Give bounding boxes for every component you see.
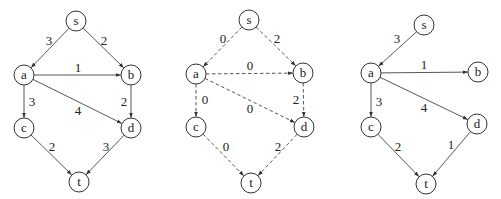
node-label: b [128,67,135,82]
node-label: t [424,176,428,191]
graph-original: 32134223sabcdt [14,11,141,192]
node-s: s [66,11,86,31]
edge-weight-a-c: 0 [202,92,209,107]
node-s: s [414,15,434,35]
node-label: b [475,64,482,79]
edge-weight-s-a: 3 [46,33,53,48]
node-a: a [186,64,206,84]
node-label: a [193,66,199,81]
edge-weight-s-a: 0 [220,31,227,46]
node-t: t [241,173,261,193]
edge-weight-a-b: 1 [75,60,82,75]
edge-weight-b-d: 2 [121,94,128,109]
node-a: a [361,63,381,83]
edge-weight-a-b: 1 [421,57,428,72]
edge-a-b [206,73,293,74]
edge-weight-c-t: 0 [223,139,230,154]
edge-weight-s-b: 2 [274,31,281,46]
node-label: a [368,65,374,80]
edge-weight-s-a: 3 [394,31,401,46]
graph-reduced-costs: 02000202sabcdt [186,10,314,193]
edge-weight-d-t: 3 [103,139,110,154]
graph-shortest-path-tree: 313421sabcdt [361,15,488,194]
node-c: c [361,117,381,137]
edge-weight-s-b: 2 [101,33,108,48]
node-d: d [121,118,141,138]
node-d: d [294,117,314,137]
edge-weight-a-c: 3 [29,94,36,109]
node-label: d [128,120,135,135]
edge-weight-a-d: 4 [421,100,428,115]
node-a: a [14,65,34,85]
edge-weight-a-c: 3 [376,94,383,109]
node-label: t [249,175,253,190]
edge-weight-d-t: 1 [448,137,455,152]
node-label: d [474,116,481,131]
edge-weight-a-d: 0 [247,101,254,116]
node-label: c [193,119,199,134]
node-label: c [21,120,27,135]
node-label: s [73,13,78,28]
node-label: t [77,174,81,189]
edge-weight-a-d: 4 [75,103,82,118]
edge-weight-c-t: 2 [49,139,56,154]
node-b: b [468,62,488,82]
edge-weight-a-b: 0 [247,58,254,73]
node-label: s [246,12,251,27]
graph-diagram-canvas: 32134223sabcdt 02000202sabcdt 313421sabc… [0,0,501,199]
node-c: c [14,118,34,138]
node-label: c [368,119,374,134]
node-d: d [467,114,487,134]
node-label: b [300,65,307,80]
node-label: d [301,119,308,134]
node-c: c [186,117,206,137]
node-b: b [293,63,313,83]
edge-a-b [381,72,468,73]
edge-weight-d-t: 2 [275,139,282,154]
edge-weight-c-t: 2 [395,139,402,154]
node-s: s [239,10,259,30]
node-t: t [69,172,89,192]
node-label: a [21,67,27,82]
edge-weight-b-d: 2 [293,92,300,107]
node-b: b [121,65,141,85]
node-t: t [416,174,436,194]
edge-b-d [303,83,304,117]
node-label: s [421,17,426,32]
